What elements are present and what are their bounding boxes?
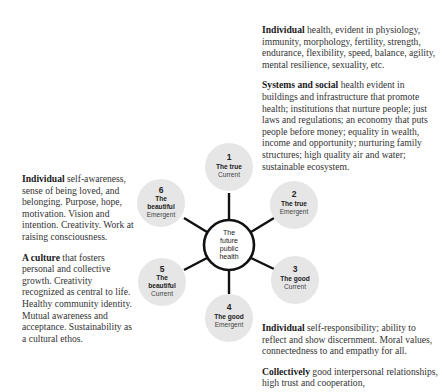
paragraph-lead: Individual: [262, 322, 305, 333]
paragraph-lead: Collectively: [262, 366, 310, 377]
node-number: 2: [292, 189, 297, 199]
spoke-3: [251, 258, 274, 269]
paragraph-systems-social-health: Systems and social health evident in bui…: [262, 79, 440, 172]
center-label: future: [220, 237, 238, 244]
paragraph-individual-self-awareness: Individual self-awareness, sense of bein…: [22, 173, 134, 243]
center-label: The: [223, 229, 235, 236]
paragraph-lead: Systems and social: [262, 79, 338, 90]
node-title: The: [155, 195, 167, 202]
node-1-true-current: 1 The true Current: [205, 143, 253, 191]
paragraph-collective-relationships: Collectively good interpersonal relation…: [262, 366, 440, 389]
node-title: The good: [214, 313, 244, 321]
paragraph-individual-self-responsibility: Individual self-responsibility; ability …: [262, 322, 440, 357]
node-4-good-emergent: 4 The good Emergent: [205, 294, 253, 342]
node-number: 1: [227, 152, 232, 162]
paragraph-lead: A culture: [22, 252, 60, 263]
node-title: The good: [280, 275, 310, 283]
node-subtitle: Current: [284, 283, 306, 290]
node-title: beautiful: [147, 203, 175, 210]
node-subtitle: Current: [151, 290, 173, 297]
paragraph-lead: Individual: [262, 24, 305, 35]
center-label: public: [220, 245, 239, 253]
paragraph-culture: A culture that fosters personal and coll…: [22, 252, 134, 345]
node-number: 4: [227, 302, 232, 312]
node-subtitle: Emergent: [147, 211, 176, 219]
node-title: The: [156, 274, 168, 281]
node-number: 5: [160, 264, 165, 274]
spoke-5: [184, 258, 207, 270]
node-2-true-emergent: 2 The true Emergent: [270, 181, 318, 229]
node-5-beautiful-current: 5 The beautiful Current: [138, 258, 186, 306]
center-label: health: [219, 253, 238, 260]
text-block-left: Individual self-awareness, sense of bein…: [22, 173, 134, 353]
text-block-bottom-right: Individual self-responsibility; ability …: [262, 322, 440, 392]
node-title: The true: [281, 200, 307, 207]
node-subtitle: Current: [218, 171, 240, 178]
spoke-6: [184, 218, 207, 232]
center-node-future-public-health: The future public health: [204, 220, 254, 270]
paragraph-body: health evident in buildings and infrastr…: [262, 79, 428, 171]
node-title: beautiful: [148, 282, 176, 289]
text-block-top-right: Individual health, evident in physiology…: [262, 24, 440, 181]
node-6-beautiful-emergent: 6 The beautiful Emergent: [137, 179, 185, 227]
node-subtitle: Emergent: [215, 321, 244, 329]
spoke-2: [251, 218, 274, 232]
paragraph-individual-physical-health: Individual health, evident in physiology…: [262, 24, 440, 70]
paragraph-lead: Individual: [22, 173, 65, 184]
node-3-good-current: 3 The good Current: [271, 256, 319, 304]
node-number: 3: [293, 264, 298, 274]
node-subtitle: Emergent: [280, 208, 309, 216]
paragraph-body: that fosters personal and collective gro…: [22, 252, 132, 344]
node-number: 6: [159, 185, 164, 195]
node-title: The true: [216, 163, 242, 170]
